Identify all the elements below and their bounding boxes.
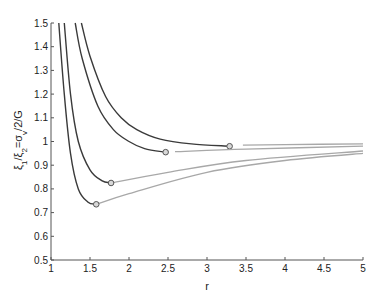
dark-line bbox=[81, 23, 229, 146]
x-tick-label: 4 bbox=[282, 263, 288, 274]
x-tick-label: 3 bbox=[204, 263, 210, 274]
light-line bbox=[175, 146, 363, 152]
marker-circle bbox=[163, 149, 169, 155]
x-tick-label: 1.5 bbox=[83, 263, 97, 274]
series-curve-2 bbox=[75, 23, 363, 155]
y-tick-label: 1.1 bbox=[34, 112, 48, 123]
plot-area bbox=[59, 23, 363, 207]
y-axis-label: ξ1/ξ2=σv/2/G bbox=[12, 110, 29, 170]
x-tick-label: 2 bbox=[126, 263, 132, 274]
light-line bbox=[243, 144, 363, 145]
series-curve-1 bbox=[81, 23, 363, 149]
dark-line bbox=[75, 23, 166, 152]
y-tick-label: 1.5 bbox=[34, 18, 48, 29]
y-tick-label: 1.3 bbox=[34, 65, 48, 76]
x-axis-label: r bbox=[205, 280, 209, 292]
light-line bbox=[96, 153, 363, 204]
marker-circle bbox=[93, 202, 99, 208]
y-axis: 0.50.60.70.80.911.11.21.31.41.5 bbox=[34, 18, 54, 266]
y-tick-label: 0.6 bbox=[34, 231, 48, 242]
marker-circle bbox=[108, 180, 114, 186]
y-tick-label: 1.2 bbox=[34, 89, 48, 100]
chart-svg: 11.522.533.544.55 0.50.60.70.80.911.11.2… bbox=[0, 0, 379, 301]
dark-line bbox=[59, 23, 96, 204]
y-tick-label: 0.9 bbox=[34, 160, 48, 171]
x-axis: 11.522.533.544.55 bbox=[48, 257, 366, 274]
y-tick-label: 1.4 bbox=[34, 41, 48, 52]
x-tick-label: 5 bbox=[360, 263, 366, 274]
y-tick-label: 0.5 bbox=[34, 255, 48, 266]
x-tick-label: 1 bbox=[48, 263, 54, 274]
y-tick-label: 1 bbox=[42, 136, 48, 147]
x-tick-label: 3.5 bbox=[239, 263, 253, 274]
y-tick-label: 0.8 bbox=[34, 183, 48, 194]
series-curve-4 bbox=[59, 23, 363, 207]
x-tick-label: 2.5 bbox=[161, 263, 175, 274]
y-tick-label: 0.7 bbox=[34, 207, 48, 218]
x-tick-label: 4.5 bbox=[317, 263, 331, 274]
series-curve-3 bbox=[64, 23, 363, 186]
marker-circle bbox=[227, 143, 233, 149]
